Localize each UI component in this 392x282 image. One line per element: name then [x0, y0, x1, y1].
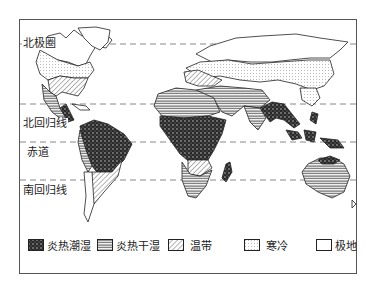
- temperate-swatch-icon: [168, 239, 184, 251]
- polar-swatch-icon: [316, 239, 332, 251]
- legend-label: 炎热潮湿: [47, 237, 91, 253]
- tropical-humid-swatch-icon: [28, 239, 44, 251]
- arctic-circle-label: 北极圈: [22, 38, 57, 50]
- legend-item-tropical-dry: 炎热干湿: [97, 237, 160, 253]
- caribbean: [72, 104, 90, 110]
- philippines: [310, 112, 318, 124]
- legend-label: 温带: [190, 237, 212, 253]
- tropical-dry-swatch-icon: [97, 239, 113, 251]
- indonesia-1: [286, 130, 302, 140]
- madagascar: [222, 162, 232, 182]
- legend-item-polar: 极地: [316, 237, 357, 253]
- east-asia-cold: [300, 88, 320, 106]
- legend-item-temperate: 温带: [168, 237, 212, 253]
- cold-swatch-icon: [244, 239, 260, 251]
- eurasia-polar: [196, 34, 348, 62]
- north-america-temperate: [48, 76, 88, 96]
- south-asia-humid: [260, 102, 300, 128]
- legend-item-tropical-humid: 炎热潮湿: [28, 237, 91, 253]
- legend-label: 寒冷: [266, 237, 288, 253]
- south-america-south: [84, 172, 94, 222]
- legend-label: 极地: [335, 237, 357, 253]
- legend-label: 炎热干湿: [116, 237, 160, 253]
- indonesia-2: [304, 130, 316, 142]
- africa-humid: [160, 116, 226, 164]
- tropic-of-cancer-label: 北回归线: [22, 118, 68, 130]
- legend-item-cold: 寒冷: [244, 237, 288, 253]
- equator-label: 赤道: [26, 147, 50, 159]
- tropic-of-capricorn-label: 南回归线: [22, 185, 68, 197]
- new-zealand: [352, 200, 356, 208]
- new-guinea: [320, 138, 344, 148]
